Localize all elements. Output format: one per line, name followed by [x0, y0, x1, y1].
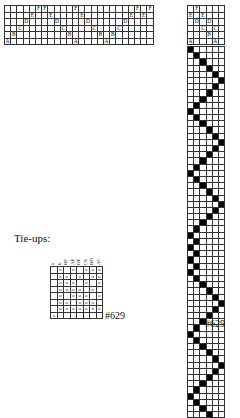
- threading-draft-grid-right: FEEDDCCBAA: [187, 5, 225, 45]
- threading-cell: [147, 38, 153, 45]
- tieup-header-label: BF: [63, 253, 70, 265]
- tieup-cell: [96, 312, 103, 319]
- threading-draft-grid: FFFFFEEEEEDDDDCCCCBBBBAAA: [4, 5, 154, 45]
- tieup-header-label: DF: [76, 253, 83, 265]
- tieup-headers: abBFAEDFCEBDAC: [50, 253, 102, 265]
- tieup-header-label: AC: [96, 253, 103, 265]
- tieup-grid: oooooooooooooooooooooooooooooooooooooo: [50, 266, 103, 319]
- tieup-header-label: a: [50, 253, 57, 265]
- treadling-cell: [218, 412, 224, 418]
- treadling-draft-grid: [187, 46, 225, 418]
- threading-cell: [218, 38, 224, 45]
- draft-number-treadling: #629: [205, 318, 225, 329]
- tieup-header-label: BD: [89, 253, 96, 265]
- draft-number-tieup: #629: [105, 310, 125, 321]
- tieups-title: Tie-ups:: [14, 232, 50, 244]
